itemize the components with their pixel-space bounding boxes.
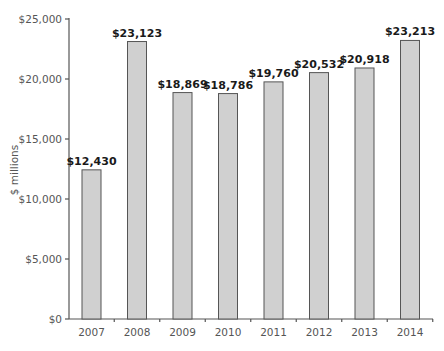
x-axis: [69, 319, 433, 322]
value-label: $23,213: [385, 25, 435, 38]
bar: [219, 94, 238, 319]
x-tick-label: 2009: [169, 326, 196, 338]
bar-chart: $0$5,000$10,000$15,000$20,000$25,000 $12…: [0, 0, 444, 351]
y-tick-label: $20,000: [19, 73, 62, 85]
value-label: $12,430: [66, 155, 116, 168]
bar: [82, 170, 101, 319]
x-tick-label: 2007: [78, 326, 105, 338]
x-tick-label: 2013: [351, 326, 378, 338]
bar-group: $18,7862010: [203, 79, 253, 338]
bar-group: $12,4302007: [66, 155, 116, 338]
y-tick-label: $0: [49, 313, 62, 325]
y-tick-label: $10,000: [19, 193, 62, 205]
bar: [173, 93, 192, 319]
bar: [310, 73, 329, 319]
bar-group: $19,7602011: [248, 67, 298, 338]
bar: [355, 68, 374, 319]
bar-group: $20,5322012: [294, 58, 344, 338]
bar: [128, 42, 147, 319]
bar-group: $23,1232008: [112, 27, 162, 338]
bar-group: $20,9182013: [339, 53, 389, 338]
y-axis: $0$5,000$10,000$15,000$20,000$25,000: [19, 13, 69, 325]
y-tick-label: $15,000: [19, 133, 62, 145]
y-tick-label: $25,000: [19, 13, 62, 25]
value-label: $23,123: [112, 27, 162, 40]
bars: $12,4302007$23,1232008$18,8692009$18,786…: [66, 25, 435, 338]
x-tick-label: 2012: [306, 326, 333, 338]
bar: [401, 40, 420, 319]
value-label: $20,918: [339, 53, 389, 66]
value-label: $18,786: [203, 79, 253, 92]
bar-group: $18,8692009: [157, 78, 207, 338]
value-label: $20,532: [294, 58, 344, 71]
x-tick-label: 2010: [215, 326, 242, 338]
y-axis-title: $ millions: [8, 145, 20, 195]
y-tick-label: $5,000: [25, 253, 62, 265]
x-tick-label: 2014: [397, 326, 424, 338]
x-tick-label: 2008: [124, 326, 151, 338]
value-label: $18,869: [157, 78, 207, 91]
value-label: $19,760: [248, 67, 298, 80]
bar: [264, 82, 283, 319]
bar-group: $23,2132014: [385, 25, 435, 338]
x-tick-label: 2011: [260, 326, 287, 338]
